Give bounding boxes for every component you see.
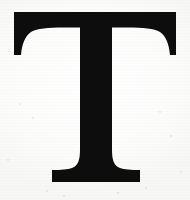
letter-t-outline	[14, 12, 176, 182]
scanned-letter-image: Black serif capital letter T on off-whit…	[0, 0, 190, 200]
glyph-layer: Black serif capital letter T on off-whit…	[0, 0, 190, 200]
letter-t-glyph: Black serif capital letter T on off-whit…	[0, 0, 190, 200]
